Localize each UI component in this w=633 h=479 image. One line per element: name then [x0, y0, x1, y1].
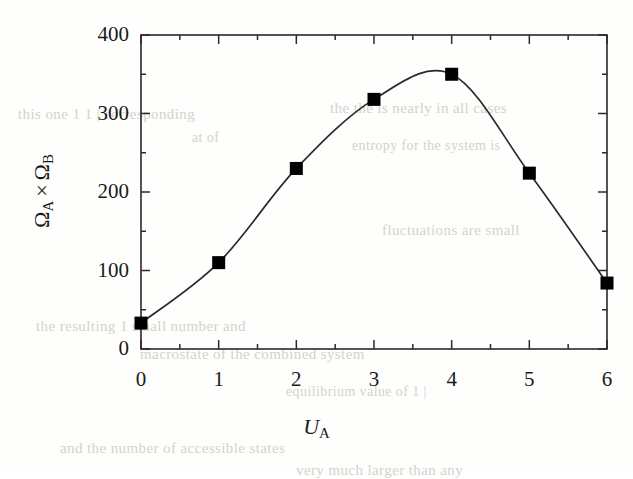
data-point-marker[interactable] [523, 167, 536, 180]
data-series-group [141, 71, 607, 323]
series-line-path [141, 71, 607, 323]
x-tick-label: 4 [437, 369, 467, 390]
y-axis-times-operator: × [29, 180, 54, 200]
y-tick-label: 300 [67, 103, 129, 124]
data-point-marker[interactable] [212, 256, 225, 269]
y-tick-label: 200 [67, 181, 129, 202]
x-tick-label: 5 [514, 369, 544, 390]
x-tick-label: 1 [204, 369, 234, 390]
data-point-marker[interactable] [135, 317, 148, 330]
x-axis-subscript-a: A [319, 425, 330, 441]
data-point-marker[interactable] [368, 93, 381, 106]
y-tick-label: 0 [67, 338, 129, 359]
y-tick-label: 400 [67, 24, 129, 45]
y-axis-omega-b-symbol: Ω [29, 164, 54, 180]
data-point-marker[interactable] [601, 277, 614, 290]
x-tick-label: 3 [359, 369, 389, 390]
x-tick-label: 6 [592, 369, 622, 390]
x-axis-title: UA [0, 414, 633, 442]
x-tick-label: 2 [281, 369, 311, 390]
y-axis-omega-b-subscript: B [40, 154, 56, 164]
data-point-marker[interactable] [445, 68, 458, 81]
axis-ticks [141, 35, 607, 349]
y-axis-omega-a-subscript: A [40, 201, 56, 212]
y-axis-omega-a-symbol: Ω [29, 212, 54, 228]
data-markers-group [135, 68, 614, 330]
data-point-marker[interactable] [290, 162, 303, 175]
plot-frame [141, 35, 607, 349]
y-tick-label: 100 [67, 260, 129, 281]
x-tick-label: 0 [126, 369, 156, 390]
plot-frame-box [141, 35, 607, 349]
y-axis-title: ΩA×ΩB [29, 41, 57, 341]
x-axis-variable-u: U [303, 414, 319, 439]
